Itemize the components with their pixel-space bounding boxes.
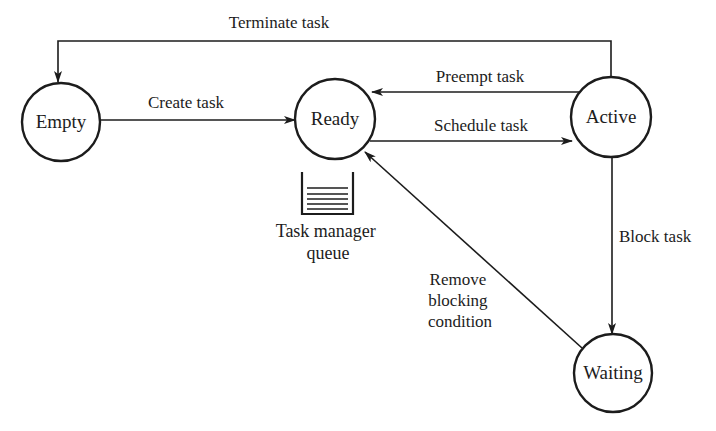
task-manager-queue: Task manager queue bbox=[276, 172, 381, 263]
state-waiting-label: Waiting bbox=[583, 362, 643, 383]
state-ready: Ready bbox=[295, 79, 375, 159]
terminate-label: Terminate task bbox=[229, 13, 330, 32]
create-label: Create task bbox=[148, 93, 224, 112]
state-waiting: Waiting bbox=[574, 334, 652, 412]
transition-create: Create task bbox=[100, 93, 295, 120]
transition-block: Block task bbox=[612, 157, 692, 334]
state-active-label: Active bbox=[586, 106, 637, 127]
transition-preempt: Preempt task bbox=[372, 67, 581, 92]
block-label: Block task bbox=[619, 227, 692, 246]
preempt-label: Preempt task bbox=[436, 67, 525, 86]
queue-label: Task manager queue bbox=[276, 221, 381, 263]
transition-terminate: Terminate task bbox=[58, 13, 611, 82]
state-active: Active bbox=[571, 77, 651, 157]
state-ready-label: Ready bbox=[311, 108, 360, 129]
transition-schedule: Schedule task bbox=[370, 116, 572, 141]
state-empty: Empty bbox=[22, 83, 100, 161]
terminate-arrow bbox=[58, 41, 611, 82]
schedule-label: Schedule task bbox=[434, 116, 528, 135]
queue-icon bbox=[302, 172, 353, 214]
state-transition-diagram: Terminate task Create task Preempt task … bbox=[0, 0, 716, 431]
remove-blocking-label: Remove blocking condition bbox=[428, 270, 493, 331]
transition-remove-blocking: Remove blocking condition bbox=[365, 152, 582, 348]
state-empty-label: Empty bbox=[36, 111, 87, 132]
